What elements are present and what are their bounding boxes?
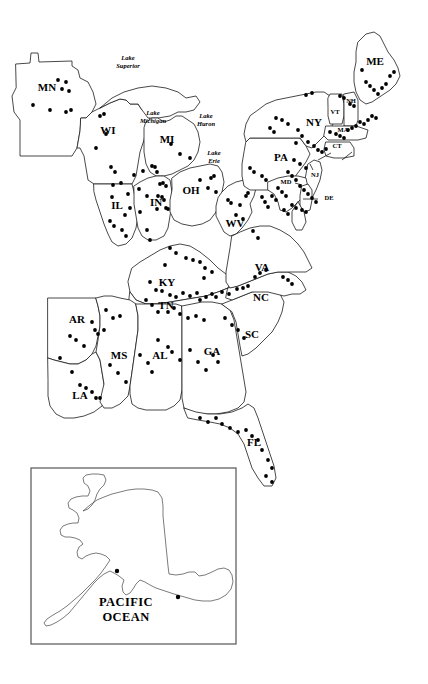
site-dot bbox=[290, 174, 294, 178]
site-dot bbox=[320, 150, 324, 154]
site-dot bbox=[132, 173, 136, 177]
site-dot bbox=[69, 108, 73, 112]
site-dot bbox=[166, 207, 170, 211]
site-dot bbox=[388, 74, 392, 78]
site-dot bbox=[168, 246, 172, 250]
lake-label-lake-superior-line1: Lake bbox=[120, 54, 134, 61]
site-dot bbox=[174, 295, 178, 299]
site-dot bbox=[270, 466, 274, 470]
state-label-la: LA bbox=[72, 389, 87, 401]
site-dot bbox=[120, 228, 124, 232]
state-label-in: IN bbox=[150, 196, 162, 208]
site-dot bbox=[194, 314, 198, 318]
site-dot bbox=[312, 144, 316, 148]
site-dot bbox=[68, 334, 72, 338]
site-dot bbox=[266, 458, 270, 462]
site-dot bbox=[102, 112, 106, 116]
site-dot bbox=[116, 371, 120, 375]
site-dot bbox=[290, 282, 294, 286]
site-dot bbox=[214, 295, 218, 299]
site-dot bbox=[195, 291, 199, 295]
state-label-ga: GA bbox=[204, 345, 221, 357]
site-dot bbox=[67, 89, 71, 93]
site-dot bbox=[352, 104, 356, 108]
site-dot bbox=[119, 181, 123, 185]
state-label-sc: SC bbox=[245, 328, 259, 340]
lake-label-lake-michigan-line1: Lake bbox=[145, 109, 159, 116]
site-dot bbox=[111, 183, 115, 187]
site-dot bbox=[154, 288, 158, 292]
site-dot bbox=[108, 363, 112, 367]
state-label-ms: MS bbox=[111, 349, 128, 361]
site-dot bbox=[294, 141, 298, 145]
state-label-oh: OH bbox=[182, 184, 200, 196]
site-dot bbox=[374, 116, 378, 120]
site-dot bbox=[70, 370, 74, 374]
site-dot bbox=[274, 116, 278, 120]
site-dot bbox=[102, 328, 106, 332]
state-label-ar: AR bbox=[69, 313, 86, 325]
site-dot bbox=[60, 87, 64, 91]
site-dot bbox=[188, 348, 192, 352]
state-label-tn: TN bbox=[158, 299, 173, 311]
site-dot bbox=[186, 316, 190, 320]
site-dot bbox=[223, 316, 227, 320]
site-dot bbox=[244, 428, 248, 432]
site-dot bbox=[298, 184, 302, 188]
site-dot bbox=[282, 208, 286, 212]
site-dot bbox=[108, 219, 112, 223]
site-dot bbox=[280, 190, 284, 194]
state-label-al: AL bbox=[152, 349, 167, 361]
site-dot bbox=[138, 353, 142, 357]
site-dot bbox=[198, 178, 202, 182]
state-label-nj: NJ bbox=[311, 171, 320, 178]
site-dot bbox=[270, 480, 274, 484]
site-dot bbox=[286, 212, 290, 216]
site-dot bbox=[272, 130, 276, 134]
site-dot bbox=[274, 198, 278, 202]
state-label-md: MD bbox=[281, 178, 292, 185]
site-dot bbox=[126, 192, 130, 196]
state-label-va: VA bbox=[255, 261, 270, 273]
site-dot bbox=[202, 318, 206, 322]
site-dot bbox=[314, 200, 318, 204]
site-dot bbox=[198, 298, 202, 302]
site-dot bbox=[338, 134, 342, 138]
site-dot bbox=[214, 190, 218, 194]
site-dot bbox=[294, 178, 298, 182]
site-dot bbox=[230, 323, 234, 327]
site-dot bbox=[286, 170, 290, 174]
site-dot bbox=[229, 201, 233, 205]
site-dot bbox=[109, 165, 113, 169]
site-dot bbox=[98, 396, 102, 400]
lake-label-lake-superior-line2: Superior bbox=[116, 62, 140, 69]
site-dot bbox=[235, 287, 239, 291]
site-dot bbox=[203, 266, 207, 270]
lake-label-lake-michigan-line2: Michigan bbox=[139, 117, 166, 124]
site-dot bbox=[93, 328, 97, 332]
site-dot bbox=[220, 422, 224, 426]
state-label-fl: FL bbox=[247, 436, 261, 448]
state-label-ny: NY bbox=[306, 116, 322, 128]
site-dot bbox=[220, 290, 224, 294]
site-dot bbox=[370, 114, 374, 118]
site-dot bbox=[174, 251, 178, 255]
site-dot bbox=[302, 188, 306, 192]
site-dot bbox=[90, 320, 94, 324]
site-dot bbox=[372, 88, 376, 92]
site-dot bbox=[241, 286, 245, 290]
alaska-site-dot bbox=[115, 569, 119, 573]
site-dot bbox=[246, 284, 250, 288]
site-dot bbox=[163, 263, 167, 267]
site-dot bbox=[161, 181, 165, 185]
pacific-ocean-label-line2: OCEAN bbox=[102, 610, 149, 624]
site-dot bbox=[196, 360, 200, 364]
site-dot bbox=[113, 170, 117, 174]
site-dot bbox=[118, 314, 122, 318]
site-dot bbox=[362, 122, 366, 126]
site-dot bbox=[111, 316, 115, 320]
site-dot bbox=[306, 140, 310, 144]
site-dot bbox=[260, 195, 264, 199]
site-dot bbox=[300, 134, 304, 138]
site-dot bbox=[181, 291, 185, 295]
